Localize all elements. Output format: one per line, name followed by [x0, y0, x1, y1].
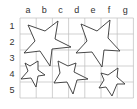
column-label: d	[74, 5, 79, 15]
small-star-left-icon	[21, 61, 45, 87]
large-star-top-right-icon	[76, 20, 120, 67]
row-label: 5	[9, 85, 14, 95]
row-labels: 12345	[9, 21, 14, 95]
column-label: a	[26, 5, 31, 15]
column-label: f	[108, 5, 111, 15]
row-label: 2	[9, 37, 14, 47]
column-labels: abcdefg	[26, 5, 128, 15]
column-label: c	[58, 5, 63, 15]
column-label: b	[42, 5, 47, 15]
row-label: 3	[9, 53, 14, 63]
column-label: e	[90, 5, 95, 15]
row-label: 4	[9, 69, 14, 79]
column-label: g	[123, 5, 128, 15]
star-grid-diagram: abcdefg 12345	[0, 0, 137, 109]
large-star-top-left-icon	[24, 21, 71, 66]
row-label: 1	[9, 21, 14, 31]
small-star-right-icon	[99, 68, 125, 96]
stars	[21, 20, 125, 96]
